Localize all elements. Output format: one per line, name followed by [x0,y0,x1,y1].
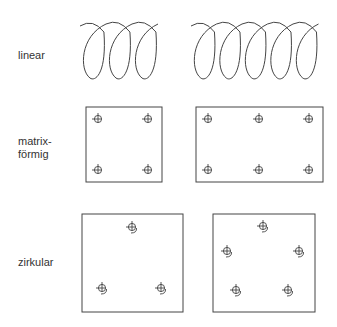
matrix-electrode-marker [253,113,263,123]
linear-coil-3-loops [80,22,158,79]
matrix-electrode-marker [253,164,263,174]
matrix-box-3x2 [196,107,323,182]
matrix-electrode-marker [202,164,212,174]
matrix-electrode-marker [303,164,313,174]
circular-electrode-marker [221,245,232,257]
circular-electrode-marker [230,284,241,296]
circular-electrode-marker [96,282,107,294]
circular-right-markers [221,220,304,296]
circular-electrode-marker [126,221,137,233]
coil-arrangement-diagram [0,0,337,327]
coil-path [80,22,158,79]
linear-coil-5-loops [191,22,319,79]
matrix-electrode-marker [142,164,152,174]
circular-electrode-marker [257,220,268,232]
matrix-electrode-marker [92,113,102,123]
matrix-left-markers [92,113,152,174]
circular-electrode-marker [155,282,166,294]
matrix-box-2x2 [86,107,162,182]
circular-electrode-marker [293,245,304,257]
circular-left-markers [96,221,166,294]
circular-electrode-marker [282,284,293,296]
matrix-electrode-marker [202,113,212,123]
circular-box-3 [82,214,183,312]
matrix-electrode-marker [303,113,313,123]
matrix-electrode-marker [142,113,152,123]
matrix-electrode-marker [92,164,102,174]
matrix-right-markers [202,113,313,174]
circular-box-5 [213,214,315,312]
coil-path [191,22,319,79]
